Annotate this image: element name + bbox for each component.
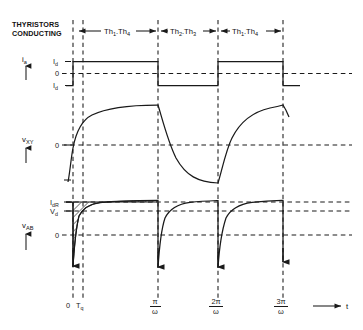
- signal-ia: ia Id 0 Id: [22, 55, 352, 91]
- signal-vxy: vXY 0: [22, 105, 352, 183]
- signal-vxy-waveform: [68, 105, 289, 183]
- xtick-pi-den: ω: [152, 307, 158, 316]
- xtick-pi-over-w: π ω: [150, 297, 161, 316]
- signal-vxy-label: vXY: [22, 135, 34, 145]
- xtick-2pi-num: 2π: [211, 297, 220, 306]
- signal-vab-label: vAB: [22, 221, 34, 231]
- interval-2-label: Th2.Th3: [170, 27, 196, 37]
- xtick-pi-num: π: [152, 297, 157, 306]
- thyristors-conducting-label: THYRISTORS CONDUCTING: [12, 20, 62, 38]
- signal-ia-level-neg: Id: [53, 81, 58, 91]
- interval-1-label: Th1.Th4: [104, 27, 130, 37]
- xtick-tq: Tq: [76, 301, 84, 311]
- time-axis-label: t: [346, 302, 349, 311]
- xtick-0: 0: [66, 301, 70, 310]
- signal-ia-waveform: [66, 62, 300, 86]
- signal-ia-level-zero: 0: [55, 69, 59, 78]
- conduction-intervals: Th1.Th4 Th2.Th3 Th1.Th4: [79, 27, 281, 37]
- xtick-3pi-num: 3π: [276, 297, 285, 306]
- waveform-figure: THYRISTORS CONDUCTING Th1.Th4 Th2.Th3 Th…: [0, 0, 363, 330]
- signal-vab-level-zero: 0: [55, 231, 59, 240]
- header-line-1: THYRISTORS: [12, 20, 59, 29]
- header-line-2: CONDUCTING: [12, 29, 62, 38]
- xtick-2pi-over-w: 2π ω: [209, 297, 223, 316]
- signal-ia-label: ia: [22, 55, 28, 65]
- conduction-interval-2: Th2.Th3: [161, 27, 216, 37]
- interval-3-label: Th1.Th4: [232, 27, 258, 37]
- xtick-3pi-over-w: 3π ω: [274, 297, 288, 316]
- signal-vab-level-vd: Vd: [50, 207, 58, 217]
- conduction-interval-1: Th1.Th4: [79, 27, 156, 37]
- signal-vab: vAB IdR Vd 0: [22, 198, 352, 268]
- x-axis-labels: 0 Tq π ω 2π ω 3π ω t: [66, 297, 349, 316]
- xtick-3pi-den: ω: [278, 307, 284, 316]
- waveform-svg: THYRISTORS CONDUCTING Th1.Th4 Th2.Th3 Th…: [0, 0, 363, 330]
- signal-vxy-level-zero: 0: [55, 141, 59, 150]
- signal-ia-level-pos: Id: [53, 57, 58, 67]
- conduction-interval-3: Th1.Th4: [221, 27, 281, 37]
- xtick-2pi-den: ω: [213, 307, 219, 316]
